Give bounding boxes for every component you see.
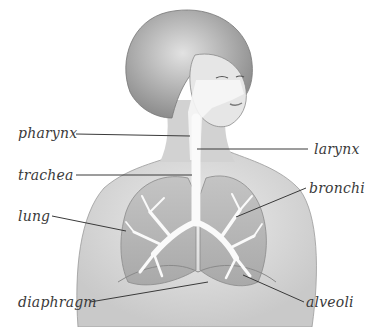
label-pharynx: pharynx — [18, 125, 77, 141]
label-alveoli: alveoli — [306, 294, 354, 310]
label-lung: lung — [18, 208, 50, 224]
anatomy-illustration — [0, 0, 370, 327]
respiratory-diagram: pharynx larynx trachea bronchi lung diap… — [0, 0, 370, 327]
label-bronchi: bronchi — [309, 180, 365, 196]
label-diaphragm: diaphragm — [18, 294, 97, 310]
label-trachea: trachea — [18, 167, 74, 183]
label-larynx: larynx — [314, 141, 360, 157]
